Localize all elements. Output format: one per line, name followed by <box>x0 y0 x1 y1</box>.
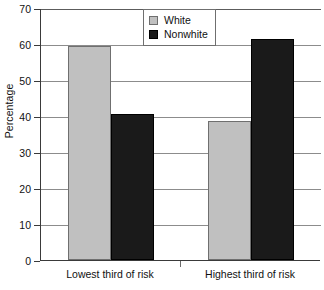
x-axis-tick-label-0: Lowest third of risk <box>40 268 180 280</box>
y-axis-tick <box>34 189 40 190</box>
x-axis-tick-label-1: Highest third of risk <box>180 268 320 280</box>
legend-item-nonwhite: Nonwhite <box>149 27 208 41</box>
y-axis-tick <box>34 81 40 82</box>
bar-chart: Percentage Lowest third of risk Highest … <box>0 0 324 290</box>
y-axis-tick <box>34 261 40 262</box>
bar-nonwhite-group-1 <box>251 39 294 260</box>
y-axis-tick-label-2: 20 <box>0 184 31 194</box>
y-axis-tick <box>34 9 40 10</box>
y-axis-tick <box>34 45 40 46</box>
legend-swatch-white <box>149 16 158 25</box>
y-axis-tick-label-6: 60 <box>0 40 31 50</box>
legend: White Nonwhite <box>143 9 216 46</box>
y-axis-tick <box>34 153 40 154</box>
plot-area <box>40 9 320 261</box>
legend-item-white: White <box>149 13 208 27</box>
y-axis-tick-label-5: 50 <box>0 76 31 86</box>
legend-label-nonwhite: Nonwhite <box>164 29 208 40</box>
legend-label-white: White <box>164 15 191 26</box>
bar-white-group-0 <box>68 46 111 260</box>
y-axis-tick-label-3: 30 <box>0 148 31 158</box>
bar-nonwhite-group-0 <box>111 114 154 260</box>
y-axis-tick <box>34 117 40 118</box>
y-axis-tick-label-0: 0 <box>0 256 31 266</box>
y-axis-tick-label-1: 10 <box>0 220 31 230</box>
legend-swatch-nonwhite <box>149 30 158 39</box>
y-axis-tick <box>34 225 40 226</box>
bar-white-group-1 <box>208 121 251 260</box>
category-separator-tick <box>180 261 181 267</box>
y-axis-tick-label-7: 70 <box>0 4 31 14</box>
y-axis-tick-label-4: 40 <box>0 112 31 122</box>
